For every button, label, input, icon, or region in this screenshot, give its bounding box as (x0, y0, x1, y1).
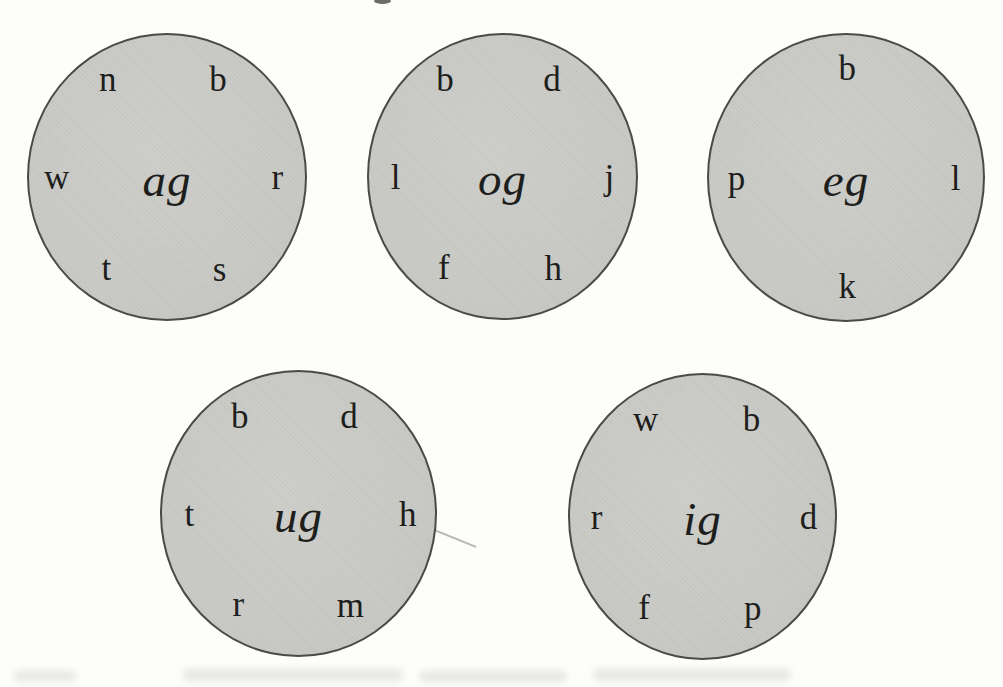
onset-letter: d (800, 499, 818, 534)
page-showthrough-smudge (14, 671, 76, 681)
onset-letter: s (213, 252, 227, 287)
rime-label: ig (683, 496, 722, 543)
onset-letter: w (44, 160, 69, 195)
worksheet-page: ag n b w r t s og b d l j f h eg b p l k… (0, 0, 1003, 687)
word-family-circle-ag: ag n b w r t s (27, 33, 307, 321)
onset-letter: j (604, 159, 614, 194)
onset-letter: w (633, 401, 658, 436)
onset-letter: m (337, 588, 364, 623)
onset-letter: f (438, 250, 450, 285)
page-showthrough-smudge (594, 669, 790, 681)
onset-letter: b (231, 398, 249, 433)
onset-letter: l (391, 159, 401, 194)
onset-letter: b (209, 62, 227, 97)
page-showthrough-smudge (420, 671, 566, 682)
onset-letter: d (340, 398, 358, 433)
onset-letter: n (99, 62, 117, 97)
onset-letter: r (591, 499, 603, 534)
onset-letter: h (544, 251, 562, 286)
onset-letter: f (638, 590, 650, 625)
onset-letter: k (839, 268, 857, 303)
page-showthrough-smudge (184, 669, 402, 681)
word-family-circle-og: og b d l j f h (367, 33, 638, 320)
rime-label: eg (823, 157, 869, 204)
word-family-circle-ug: ug b d t h r m (160, 370, 437, 657)
word-family-circle-ig: ig w b r d f p (568, 373, 837, 660)
cutoff-text-descender-artifact (374, 0, 391, 4)
onset-letter: r (272, 160, 284, 195)
scan-scratch-artifact (431, 528, 476, 548)
onset-letter: b (839, 50, 857, 85)
onset-letter: p (744, 591, 762, 626)
onset-letter: t (101, 250, 111, 285)
onset-letter: p (728, 160, 746, 195)
onset-letter: b (436, 61, 454, 96)
onset-letter: t (184, 496, 194, 531)
rime-label: ug (274, 493, 323, 540)
rime-label: ag (143, 156, 192, 203)
onset-letter: l (951, 160, 961, 195)
rime-label: og (478, 156, 527, 203)
onset-letter: b (743, 401, 761, 436)
onset-letter: d (543, 61, 561, 96)
onset-letter: r (233, 587, 245, 622)
word-family-circle-eg: eg b p l k (707, 33, 985, 322)
onset-letter: h (399, 496, 417, 531)
